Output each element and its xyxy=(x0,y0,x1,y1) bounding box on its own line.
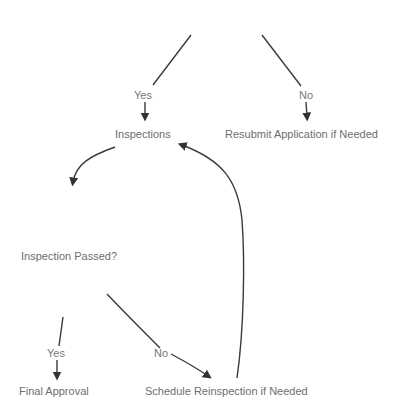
edge-passed-to-final xyxy=(59,317,63,346)
edge-label-no-bottom: No xyxy=(154,347,168,360)
node-schedule-reinspection: Schedule Reinspection if Needed xyxy=(145,385,308,398)
edge-yes-to-inspections xyxy=(153,35,191,85)
node-final-approval: Final Approval xyxy=(19,385,89,398)
edge-label-yes-bottom: Yes xyxy=(47,347,65,360)
edge-no-to-resubmit xyxy=(262,35,301,86)
edge-passed-to-reinspect xyxy=(107,294,160,348)
edge-label-yes-top: Yes xyxy=(134,89,152,102)
edge-reinspect-to-inspections xyxy=(182,145,244,378)
node-inspection-passed: Inspection Passed? xyxy=(21,250,117,263)
node-inspections: Inspections xyxy=(115,128,171,141)
edge-inspections-to-passed xyxy=(73,147,115,182)
edge-no-to-resubmit-arrow xyxy=(306,102,307,117)
edge-passed-to-reinspect-arrow xyxy=(171,354,208,376)
node-resubmit-application: Resubmit Application if Needed xyxy=(225,128,378,141)
edge-label-no-top: No xyxy=(299,89,313,102)
